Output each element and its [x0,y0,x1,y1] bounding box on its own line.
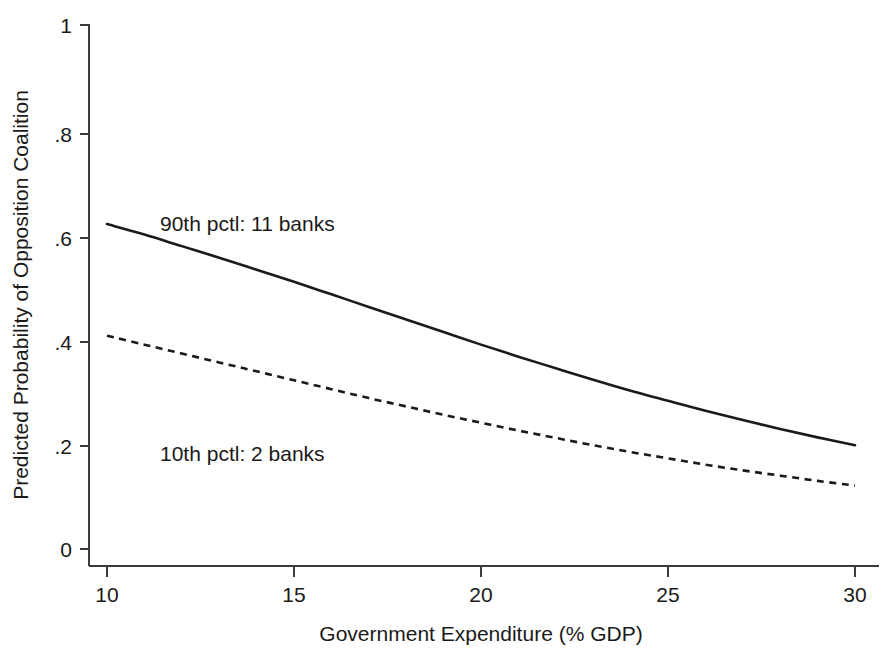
x-tick-label-30: 30 [843,583,866,606]
y-tick-label-0.4: .4 [54,331,72,354]
line-chart: 1 .8 .6 .4 .2 0 10 15 20 25 30 Governmen… [0,0,883,654]
y-tick-label-0.2: .2 [54,435,72,458]
y-tick-label-0.8: .8 [54,123,72,146]
y-tick-label-0.6: .6 [54,227,72,250]
series-annotation-upper: 90th pctl: 11 banks [160,212,335,235]
x-axis-title: Government Expenditure (% GDP) [319,622,642,645]
series-annotation-lower: 10th pctl: 2 banks [160,442,325,465]
y-tick-label-1: 1 [60,14,72,37]
y-axis-title: Predicted Probability of Opposition Coal… [9,90,32,500]
series-line-90th-pctl [107,224,855,445]
x-tick-label-15: 15 [282,583,305,606]
x-tick-label-25: 25 [656,583,679,606]
chart-figure: 1 .8 .6 .4 .2 0 10 15 20 25 30 Governmen… [0,0,883,654]
x-tick-label-20: 20 [469,583,492,606]
x-tick-label-10: 10 [95,583,118,606]
y-tick-label-0: 0 [60,538,72,561]
